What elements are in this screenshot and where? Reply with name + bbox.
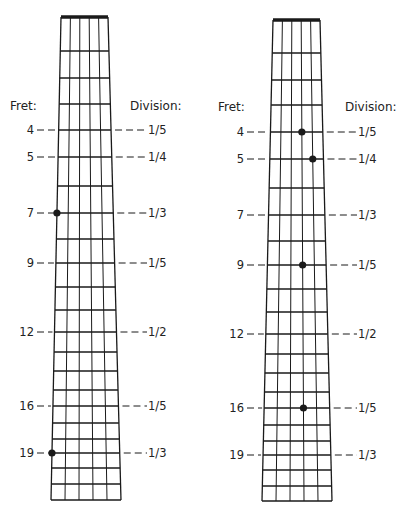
string-line (51, 17, 61, 500)
division-label: 1/3 (148, 446, 167, 460)
fret-number-label: 12 (229, 327, 244, 341)
division-label: 1/3 (358, 208, 377, 222)
fret-number-label: 7 (27, 206, 34, 220)
division-label: 1/5 (358, 401, 377, 415)
division-header: Division: (345, 100, 397, 114)
harmonic-dot-marker (300, 404, 307, 411)
string-line (290, 20, 292, 501)
string-line (262, 20, 273, 501)
harmonic-dot-marker (53, 209, 60, 216)
fret-header: Fret: (10, 99, 37, 113)
fret-number-label: 4 (237, 125, 244, 139)
division-label: 1/5 (148, 399, 167, 413)
harmonic-dot-marker (299, 261, 306, 268)
division-label: 1/5 (358, 258, 377, 272)
string-line (99, 17, 107, 500)
fret-number-label: 9 (27, 256, 34, 270)
division-label: 1/3 (358, 448, 377, 462)
fret-number-label: 19 (229, 448, 244, 462)
fretboard-division-diagram: Fret:Division:41/551/471/391/5121/2161/5… (0, 0, 399, 513)
left-fretboard: Fret:Division:41/551/471/391/5121/2161/5… (10, 17, 182, 500)
string-line (79, 17, 80, 500)
string-line (108, 17, 121, 500)
fret-number-label: 16 (19, 399, 34, 413)
harmonic-dot-marker (298, 128, 305, 135)
fret-number-label: 16 (229, 401, 244, 415)
fret-number-label: 9 (237, 258, 244, 272)
harmonic-dot-marker (48, 449, 55, 456)
fret-header: Fret: (218, 100, 245, 114)
right-fretboard: Fret:Division:41/551/471/391/5121/2161/5… (218, 20, 397, 501)
string-line (89, 17, 93, 500)
division-label: 1/2 (148, 325, 167, 339)
string-line (320, 20, 332, 501)
fret-number-label: 19 (19, 446, 34, 460)
fret-number-label: 5 (237, 152, 244, 166)
division-label: 1/3 (148, 206, 167, 220)
string-line (311, 20, 318, 501)
division-label: 1/4 (358, 152, 377, 166)
string-line (301, 20, 304, 501)
division-label: 1/5 (148, 123, 167, 137)
fret-number-label: 12 (19, 325, 34, 339)
division-label: 1/4 (148, 150, 167, 164)
division-header: Division: (130, 99, 182, 113)
harmonic-dot-marker (309, 155, 316, 162)
division-label: 1/5 (148, 256, 167, 270)
fret-number-label: 7 (237, 208, 244, 222)
division-label: 1/5 (358, 125, 377, 139)
fret-number-label: 5 (27, 150, 34, 164)
string-line (65, 17, 70, 500)
division-label: 1/2 (358, 327, 377, 341)
string-line (276, 20, 282, 501)
fret-number-label: 4 (27, 123, 34, 137)
